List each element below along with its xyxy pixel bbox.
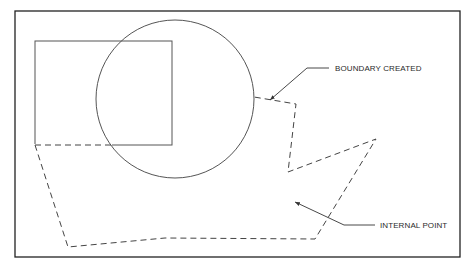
boundary-created-leader [270,68,329,100]
internal-point-label: INTERNAL POINT [380,221,447,230]
rectangle-shape [35,41,172,145]
circle-shape [96,20,254,178]
boundary-created-label: BOUNDARY CREATED [335,64,422,73]
diagram-canvas: BOUNDARY CREATED INTERNAL POINT [0,0,474,272]
